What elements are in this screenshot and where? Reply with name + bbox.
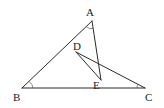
label-c: C bbox=[145, 91, 152, 103]
label-a: A bbox=[86, 6, 94, 18]
angle-marks bbox=[29, 27, 138, 89]
angle-mark-b bbox=[29, 81, 33, 88]
geometry-diagram: A B C D E bbox=[0, 0, 164, 108]
angle-mark-c bbox=[137, 85, 138, 89]
segments bbox=[22, 21, 145, 88]
angle-mark-a bbox=[86, 27, 93, 29]
label-b: B bbox=[13, 91, 20, 103]
label-e: E bbox=[93, 79, 100, 91]
label-d: D bbox=[73, 40, 81, 52]
segment-dc bbox=[76, 52, 145, 88]
